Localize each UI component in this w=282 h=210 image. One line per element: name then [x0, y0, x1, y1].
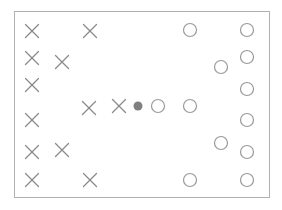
scatter-plot-canvas: [0, 0, 282, 210]
query-point-layer: [134, 102, 143, 111]
marker-query-dot: [134, 102, 143, 111]
figure-root: [0, 0, 282, 210]
